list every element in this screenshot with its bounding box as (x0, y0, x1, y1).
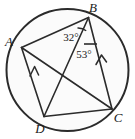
geometry-canvas: A B C D 32° 53° (0, 0, 135, 139)
angle-label-ABD: 32° (63, 31, 78, 43)
geometry-figure: A B C D 32° 53° (0, 0, 135, 139)
vertex-label-B: B (89, 0, 97, 15)
angle-label-DBC: 53° (76, 48, 91, 60)
vertex-label-C: C (114, 110, 123, 125)
vertex-label-D: D (34, 121, 45, 136)
vertex-label-A: A (4, 34, 13, 49)
